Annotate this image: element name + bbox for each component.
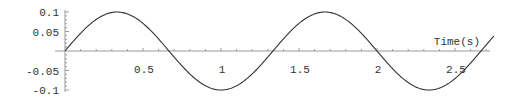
y-tick-label: 0.1 — [39, 7, 59, 19]
y-tick-label: 0.05 — [33, 27, 59, 39]
x-tick-label: 2 — [375, 64, 382, 76]
x-tick-label: 1.5 — [290, 64, 310, 76]
x-tick-label: 0.5 — [134, 64, 154, 76]
y-tick-label: -0.05 — [26, 66, 59, 78]
y-tick-label: -0.1 — [33, 85, 60, 97]
x-axis-label: Time(s) — [434, 36, 480, 48]
x-tick-label: 1 — [219, 64, 226, 76]
line-chart: 0.5 1 1.5 2 2.5 0.1 0.05 -0.05 -0.1 Time… — [0, 0, 509, 102]
x-tick-label: 2.5 — [446, 64, 466, 76]
